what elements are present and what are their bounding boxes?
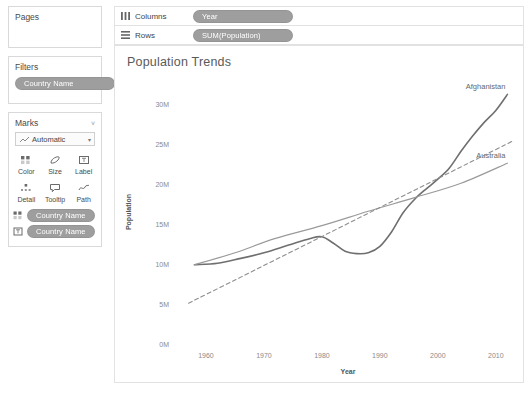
y-axis-tick-label: 10M — [155, 261, 169, 268]
columns-icon — [121, 12, 131, 20]
chevron-down-icon[interactable]: ▾ — [88, 136, 91, 143]
line-mark-icon — [20, 136, 28, 143]
marks-pill-list: Country Name Country Name — [9, 205, 101, 240]
mark-type-select[interactable]: Automatic ▾ — [15, 132, 95, 146]
shelf-container: Columns Year Rows SUM(Population) — [114, 6, 524, 45]
marks-buttons-grid: Color Size Label — [9, 152, 101, 205]
y-axis-title: Population — [125, 194, 133, 230]
viz-canvas[interactable]: Population Trends 0M5M10M15M20M25M30M196… — [114, 45, 524, 383]
marks-pill-country-name-color[interactable]: Country Name — [27, 209, 95, 222]
marks-pill-country-name-label[interactable]: Country Name — [27, 225, 95, 238]
marks-button-size[interactable]: Size — [41, 152, 70, 177]
marks-button-label: Size — [48, 168, 62, 175]
columns-shelf[interactable]: Columns Year — [115, 7, 523, 26]
marks-button-tooltip[interactable]: Tooltip — [41, 180, 70, 205]
y-axis-tick-label: 5M — [159, 301, 169, 308]
marks-button-color[interactable]: Color — [12, 152, 41, 177]
filters-card-header: Filters — [9, 57, 101, 76]
filters-card: Filters Country Name — [8, 56, 102, 104]
series-line[interactable] — [189, 141, 514, 303]
rows-icon — [121, 31, 131, 39]
marks-button-label: Tooltip — [45, 196, 65, 203]
rows-pill-sum-population[interactable]: SUM(Population) — [193, 29, 293, 42]
filters-pill-area: Country Name — [9, 76, 101, 100]
color-icon — [19, 154, 33, 166]
columns-pill-year[interactable]: Year — [193, 10, 293, 23]
marks-button-label: Color — [18, 168, 35, 175]
y-axis-tick-label: 20M — [155, 181, 169, 188]
chart-plot-area: 0M5M10M15M20M25M30M196019701980199020002… — [115, 72, 523, 382]
color-icon — [13, 211, 23, 220]
filters-title: Filters — [15, 62, 38, 72]
label-icon — [13, 227, 23, 236]
left-panel: Pages Filters Country Name Marks ˅ Autom… — [0, 0, 110, 393]
y-axis-tick-label: 25M — [155, 141, 169, 148]
line-chart: 0M5M10M15M20M25M30M196019701980199020002… — [115, 72, 524, 383]
label-icon — [77, 154, 91, 166]
marks-button-label: Path — [76, 196, 90, 203]
series-label: Australia — [476, 151, 506, 160]
mark-type-value: Automatic — [32, 135, 65, 144]
tooltip-icon — [48, 182, 62, 194]
path-icon — [77, 182, 91, 194]
x-axis-tick-label: 2010 — [488, 352, 504, 359]
pages-card: Pages — [8, 6, 102, 48]
y-axis-tick-label: 30M — [155, 101, 169, 108]
marks-button-label-text: Label — [75, 168, 92, 175]
series-label: Afghanistan — [466, 82, 506, 91]
filter-pill-country-name[interactable]: Country Name — [15, 77, 115, 90]
main-area: Columns Year Rows SUM(Population) Popula… — [110, 0, 530, 393]
x-axis-tick-label: 2000 — [430, 352, 446, 359]
chevron-down-icon[interactable]: ˅ — [91, 120, 95, 127]
detail-icon — [19, 182, 33, 194]
rows-shelf[interactable]: Rows SUM(Population) — [115, 26, 523, 45]
x-axis-tick-label: 1980 — [314, 352, 330, 359]
marks-button-label: Detail — [17, 196, 35, 203]
pages-title: Pages — [15, 12, 39, 22]
marks-button-path[interactable]: Path — [69, 180, 98, 205]
marks-title: Marks — [15, 118, 38, 128]
x-axis-tick-label: 1970 — [256, 352, 272, 359]
y-axis-tick-label: 15M — [155, 221, 169, 228]
marks-pill-row-label: Country Name — [13, 225, 97, 238]
x-axis-tick-label: 1960 — [198, 352, 214, 359]
x-axis-title: Year — [341, 368, 356, 375]
columns-shelf-label: Columns — [131, 12, 187, 21]
size-icon — [48, 154, 62, 166]
y-axis-tick-label: 0M — [159, 341, 169, 348]
marks-pill-row-color: Country Name — [13, 209, 97, 222]
marks-button-detail[interactable]: Detail — [12, 180, 41, 205]
rows-shelf-label: Rows — [131, 31, 187, 40]
series-line[interactable] — [194, 163, 507, 265]
x-axis-tick-label: 1990 — [372, 352, 388, 359]
marks-card: Marks ˅ Automatic ▾ — [8, 112, 102, 247]
tableau-worksheet: Pages Filters Country Name Marks ˅ Autom… — [0, 0, 530, 393]
pages-card-header: Pages — [9, 7, 101, 26]
series-line[interactable] — [194, 94, 507, 264]
marks-button-label[interactable]: Label — [69, 152, 98, 177]
page-title: Population Trends — [115, 46, 523, 69]
marks-card-header: Marks ˅ — [9, 113, 101, 132]
